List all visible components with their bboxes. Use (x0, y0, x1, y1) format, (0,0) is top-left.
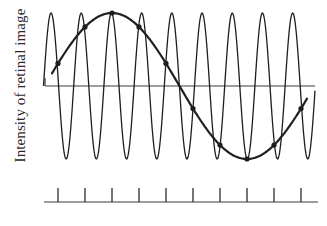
sample-point (271, 143, 276, 148)
sample-point (217, 143, 222, 148)
sample-point (136, 24, 141, 29)
sample-point (163, 61, 168, 66)
sampling-ticks (58, 188, 301, 202)
sample-point (55, 61, 60, 66)
aliasing-diagram (0, 0, 327, 226)
sample-point (298, 106, 303, 111)
sample-point (82, 24, 87, 29)
sample-point (190, 106, 195, 111)
sample-point (109, 10, 114, 15)
sample-point (244, 156, 249, 161)
